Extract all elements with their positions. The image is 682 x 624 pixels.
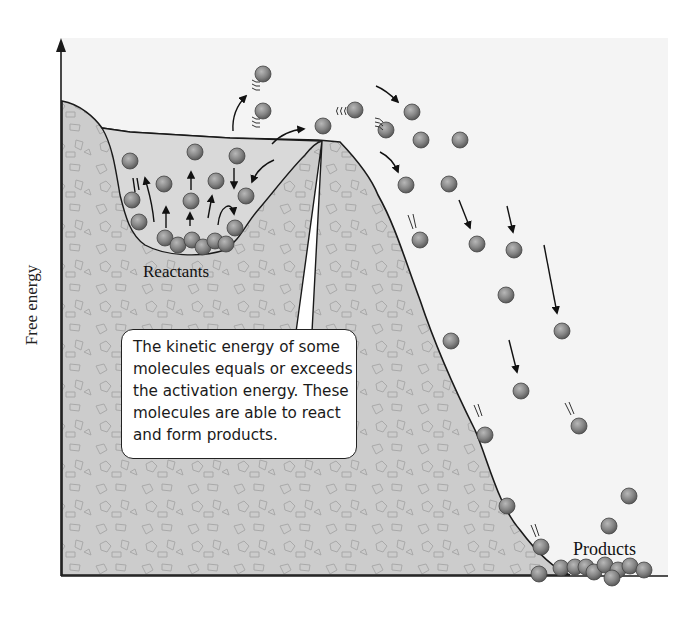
y-axis-label-text: Free energy xyxy=(22,265,42,345)
activation-energy-callout: The kinetic energy of some molecules equ… xyxy=(121,329,357,459)
callout-line: the activation energy. These xyxy=(133,380,348,402)
callout-line: and form products. xyxy=(133,424,348,446)
diagram-canvas xyxy=(0,0,682,624)
products-label: Products xyxy=(573,539,636,560)
callout-line: molecules are able to react xyxy=(133,402,348,424)
reactants-label: Reactants xyxy=(143,262,209,282)
energy-diagram: Free energy Reactants Products The kinet… xyxy=(0,0,682,624)
callout-line: molecules equals or exceeds xyxy=(133,358,348,380)
callout-line: The kinetic energy of some xyxy=(133,336,348,358)
